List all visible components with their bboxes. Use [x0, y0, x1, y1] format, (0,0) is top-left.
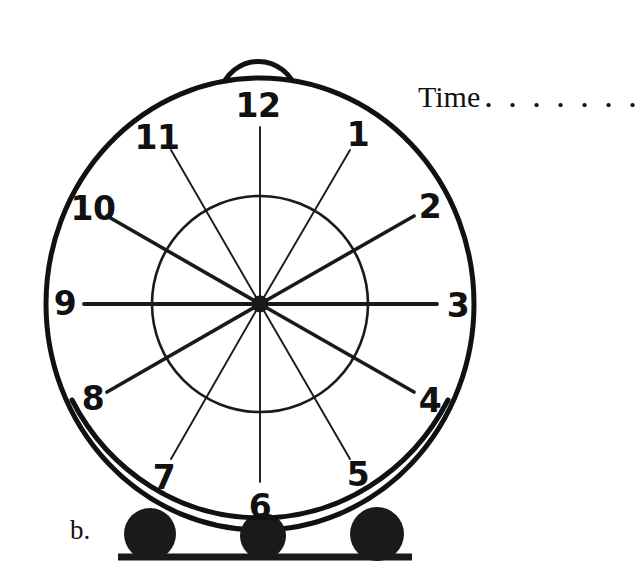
clock-number-12: 12 — [236, 89, 281, 122]
worksheet-canvas: 12 1 2 3 4 5 6 7 8 9 10 11 Time. . . . .… — [0, 0, 641, 581]
clock-number-7: 7 — [153, 461, 175, 494]
clock-number-8: 8 — [82, 382, 104, 415]
foot-left-icon — [124, 508, 176, 560]
item-letter-label: b. — [70, 517, 90, 544]
clock-center-hub — [252, 296, 269, 313]
clock-number-1: 1 — [347, 118, 369, 151]
foot-right-icon — [350, 507, 404, 561]
clock-number-5: 5 — [347, 458, 369, 491]
clock-number-2: 2 — [419, 190, 441, 223]
time-answer-blank[interactable]: . . . . . . . — [485, 84, 641, 113]
clock-number-10: 10 — [71, 192, 116, 225]
clock-number-11: 11 — [135, 121, 180, 154]
time-prompt-label: Time — [418, 80, 480, 113]
time-answer-prompt: Time. . . . . . . — [418, 82, 641, 112]
clock-number-3: 3 — [447, 289, 469, 322]
clock-number-4: 4 — [419, 384, 441, 417]
clock-number-6: 6 — [249, 490, 271, 523]
clock-number-9: 9 — [54, 287, 76, 320]
